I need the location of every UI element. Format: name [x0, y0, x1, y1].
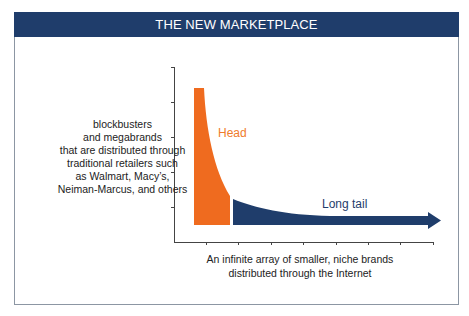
- head-label: Head: [218, 126, 247, 140]
- label-line: as Walmart, Macy’s,: [30, 170, 215, 183]
- x-axis: [174, 242, 434, 245]
- label-line: traditional retailers such: [30, 157, 215, 170]
- label-line: that are distributed through: [30, 144, 215, 157]
- label-line: Neiman-Marcus, and others: [30, 183, 215, 196]
- label-line: distributed through the Internet: [190, 267, 410, 281]
- niche-brands-label: An infinite array of smaller, niche bran…: [190, 253, 410, 280]
- label-line: An infinite array of smaller, niche bran…: [190, 253, 410, 267]
- long-tail-label: Long tail: [322, 197, 367, 211]
- label-line: blockbusters: [30, 118, 215, 131]
- blockbusters-label: blockbusters and megabrands that are dis…: [30, 118, 215, 196]
- label-line: and megabrands: [30, 131, 215, 144]
